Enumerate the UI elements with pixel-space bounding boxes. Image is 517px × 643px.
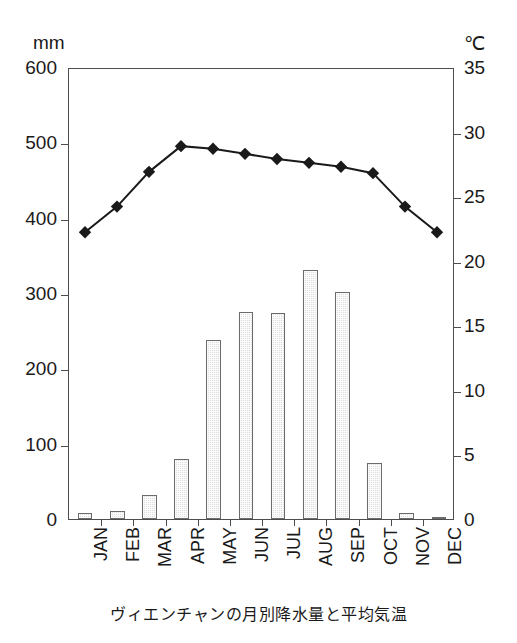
marker-sep [335,161,347,173]
chart-caption: ヴィエンチャンの月別降水量と平均気温 [0,601,517,625]
bottom-tick-mark [326,519,327,526]
month-label-jul: JUL [284,527,305,559]
right-axis-unit-label: ℃ [464,32,485,55]
left-tick-mark [61,370,69,371]
month-label-apr: APR [188,527,209,564]
bottom-tick-mark [133,519,134,526]
right-tick-mark [453,134,461,135]
left-tick-label: 0 [46,509,57,531]
left-tick-label: 600 [25,57,57,79]
marker-jul [271,153,283,165]
left-tick-mark [61,295,69,296]
right-tick-label: 5 [464,444,475,466]
bottom-tick-mark [198,519,199,526]
month-label-may: MAY [220,527,241,565]
left-tick-label: 100 [25,434,57,456]
right-tick-mark [453,456,461,457]
right-tick-mark [453,327,461,328]
month-label-oct: OCT [381,527,402,565]
left-tick-label: 200 [25,358,57,380]
climate-chart-figure: mm ℃ 6005004003002001000 35302520151050 … [0,0,517,643]
right-tick-label: 25 [464,186,485,208]
bottom-tick-mark [423,519,424,526]
right-tick-label: 35 [464,57,485,79]
right-tick-mark [453,263,461,264]
month-label-mar: MAR [155,527,176,567]
marker-jun [239,148,251,160]
left-tick-mark [61,220,69,221]
bottom-tick-mark [166,519,167,526]
left-axis-tick-labels: 6005004003002001000 [0,68,57,520]
month-label-jan: JAN [91,527,112,561]
temperature-line [69,69,453,519]
month-axis-labels: JANFEBMARAPRMAYJUNJULAUGSEPOCTNOVDEC [68,527,454,589]
bottom-tick-mark [359,519,360,526]
left-tick-label: 400 [25,208,57,230]
marker-aug [303,157,315,169]
right-tick-label: 30 [464,122,485,144]
right-axis-tick-labels: 35302520151050 [464,68,517,520]
right-tick-mark [453,198,461,199]
bottom-tick-mark [294,519,295,526]
right-tick-mark [453,392,461,393]
left-axis-unit-label: mm [33,32,65,54]
bottom-tick-mark [262,519,263,526]
bottom-tick-mark [101,519,102,526]
marker-may [207,143,219,155]
bottom-tick-mark [391,519,392,526]
left-tick-label: 500 [25,132,57,154]
plot-area [68,68,454,520]
month-label-feb: FEB [123,527,144,562]
right-tick-label: 20 [464,251,485,273]
right-tick-label: 10 [464,380,485,402]
left-tick-label: 300 [25,283,57,305]
month-label-jun: JUN [252,527,273,562]
left-tick-mark [61,446,69,447]
right-tick-label: 15 [464,315,485,337]
month-label-sep: SEP [348,527,369,563]
temperature-polyline [85,146,437,232]
month-label-aug: AUG [316,527,337,566]
bottom-tick-mark [230,519,231,526]
left-tick-mark [61,144,69,145]
month-label-dec: DEC [445,527,466,565]
month-label-nov: NOV [413,527,434,566]
